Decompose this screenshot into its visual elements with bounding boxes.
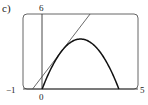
x-max-label: 5 (140, 85, 145, 95)
parabola-curve (42, 39, 119, 89)
y-max-label: 6 (39, 3, 44, 13)
panel-label: c) (2, 2, 11, 15)
viewing-window-frame (23, 14, 138, 89)
graph: c) 6 −1 0 5 (0, 0, 148, 105)
x-origin-label: 0 (39, 92, 44, 102)
x-min-label: −1 (6, 85, 16, 95)
